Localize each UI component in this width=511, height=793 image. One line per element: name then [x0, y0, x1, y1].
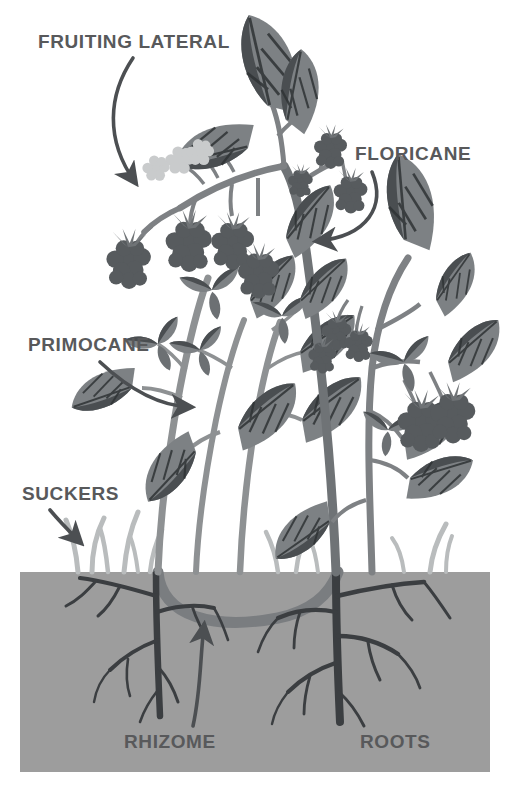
label-primocane: PRIMOCANE: [28, 334, 150, 355]
leaf: [423, 251, 491, 316]
diagram-root: FRUITING LATERAL FLORICANE PRIMOCANE SUC…: [0, 0, 511, 793]
label-roots: ROOTS: [360, 731, 431, 752]
leaf: [71, 360, 134, 417]
leaf: [269, 501, 334, 560]
leaf: [296, 376, 370, 443]
berry-ripe: [314, 124, 347, 168]
label-rhizome: RHIZOME: [124, 731, 216, 752]
label-fruiting-lateral: FRUITING LATERAL: [38, 31, 230, 52]
berry-ripe: [288, 164, 313, 197]
berry-ripe: [334, 168, 368, 214]
leaflet: [370, 336, 442, 400]
leaf: [367, 153, 458, 250]
arrow-fruiting-lateral: [113, 58, 135, 182]
leaflet: [179, 267, 246, 324]
leaf: [406, 448, 473, 508]
berry-ripe: [430, 382, 475, 443]
label-suckers: SUCKERS: [22, 483, 119, 504]
leaf: [292, 257, 359, 319]
leaf: [441, 319, 510, 383]
arrow-suckers: [50, 510, 80, 542]
berry-ripe: [106, 229, 150, 289]
suckers-group: [66, 512, 452, 572]
floricane: [134, 14, 510, 572]
label-floricane: FLORICANE: [355, 143, 471, 164]
raspberry-anatomy-diagram: FRUITING LATERAL FLORICANE PRIMOCANE SUC…: [0, 0, 511, 793]
